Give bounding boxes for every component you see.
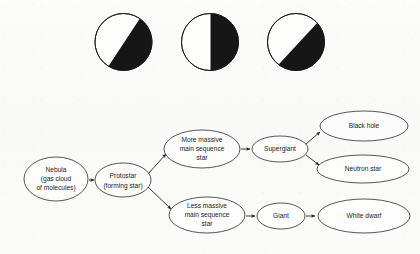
node-supergiant[interactable]: Supergiant: [252, 136, 308, 162]
moon-phase-circle-3: [268, 8, 332, 76]
node-less-massive-label-line-3: star: [202, 220, 214, 227]
diagram-canvas: Nebula (gas cloud of molecules) Protosta…: [0, 0, 420, 254]
node-less-massive-label-line-2: main sequence: [185, 211, 230, 219]
node-more-massive-label-line-3: star: [197, 154, 209, 161]
phase-2-shadow: [211, 10, 243, 74]
moon-phase-circle-1: [95, 0, 160, 76]
edge-protostar-to-less-massive: [148, 187, 171, 209]
flowchart-nodes: Nebula (gas cloud of molecules) Protosta…: [24, 111, 410, 233]
node-supergiant-label: Supergiant: [264, 145, 296, 153]
node-protostar[interactable]: Protostar (forming star): [95, 163, 151, 197]
node-more-massive-label-line-2: main sequence: [180, 145, 225, 153]
moon-phase-row: [95, 0, 331, 76]
edge-protostar-to-more-massive: [148, 154, 166, 174]
node-neutron-star[interactable]: Neutron star: [317, 155, 409, 183]
node-black-hole-label: Black hole: [349, 122, 380, 129]
node-neutron-star-label: Neutron star: [345, 165, 382, 172]
node-protostar-label-line-1: Protostar: [110, 172, 138, 179]
edge-supergiant-to-neutron-star: [306, 155, 319, 165]
node-white-dwarf-label: White dwarf: [347, 212, 382, 219]
node-giant[interactable]: Giant: [257, 203, 305, 229]
node-protostar-shape[interactable]: [95, 163, 151, 197]
node-giant-label: Giant: [273, 212, 289, 219]
node-white-dwarf[interactable]: White dwarf: [318, 199, 410, 233]
edge-supergiant-to-black-hole: [306, 132, 320, 144]
node-more-massive-label-line-1: More massive: [181, 136, 222, 143]
node-less-massive-label-line-1: Less massive: [187, 202, 227, 209]
node-nebula[interactable]: Nebula (gas cloud of molecules): [24, 157, 88, 201]
node-less-massive-main-sequence-star[interactable]: Less massive main sequence star: [169, 197, 245, 233]
node-black-hole[interactable]: Black hole: [320, 111, 408, 141]
moon-phase-circle-2: [182, 10, 243, 74]
node-nebula-label-line-3: of molecules): [36, 184, 75, 192]
node-nebula-label-line-2: (gas cloud: [41, 175, 72, 183]
node-protostar-label-line-2: (forming star): [103, 182, 142, 190]
phase-2-dark-region: [211, 10, 243, 74]
node-nebula-label-line-1: Nebula: [46, 166, 67, 173]
worksheet-page: Nebula (gas cloud of molecules) Protosta…: [0, 0, 420, 254]
node-more-massive-main-sequence-star[interactable]: More massive main sequence star: [164, 130, 240, 168]
